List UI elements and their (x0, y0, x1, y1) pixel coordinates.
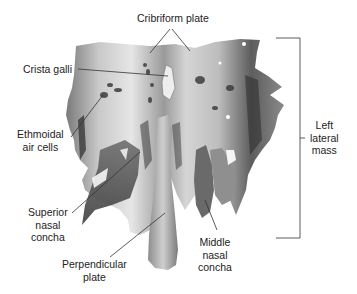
label-cribriform-plate: Cribriform plate (137, 12, 209, 25)
label-ethmoidal-air-cells: Ethmoidal air cells (17, 128, 64, 153)
label-superior-nasal-concha: Superior nasal concha (28, 206, 68, 244)
ethmoid-bone-figure: Cribriform plate Crista galli Ethmoidal … (0, 0, 357, 294)
lateral-mass-bracket (276, 38, 300, 238)
label-left-lateral-mass: Left lateral mass (310, 119, 339, 157)
label-crista-galli: Crista galli (23, 63, 72, 76)
label-middle-nasal-concha: Middle nasal concha (198, 236, 232, 274)
label-perpendicular-plate: Perpendicular plate (62, 258, 127, 283)
